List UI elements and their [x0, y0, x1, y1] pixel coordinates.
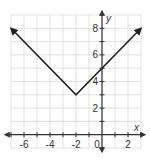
x-axis-label: x [133, 122, 140, 133]
x-tick-label: 2 [125, 139, 131, 150]
y-tick-label: 2 [92, 103, 98, 114]
y-tick-label: 6 [92, 49, 98, 60]
y-tick-label: 8 [92, 23, 98, 34]
chart: -6-4-2022468 x y [0, 0, 150, 161]
x-tick-label: 0 [94, 139, 100, 150]
x-tick-label: -6 [20, 139, 29, 150]
y-axis-label: y [105, 13, 112, 24]
x-tick-label: -2 [72, 139, 81, 150]
x-tick-label: -4 [46, 139, 55, 150]
grid [11, 15, 141, 148]
